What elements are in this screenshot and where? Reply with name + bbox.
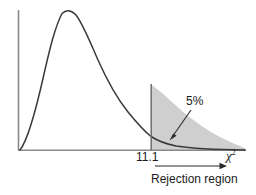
rejection-region-text: Rejection region [151,172,238,186]
chi-square-density-curve [20,11,245,150]
x-axis-label: χ2 [226,149,236,162]
chart-canvas [0,0,256,195]
threshold-value-label: 11.1 [0,151,256,163]
chi-exponent: 2 [232,148,236,157]
chi-square-rejection-region-figure: 11.1 5% χ2 Rejection region [0,0,256,195]
rejection-region-label: Rejection region [0,173,256,185]
rejection-region-arrow [155,163,227,169]
threshold-value-text: 11.1 [136,150,158,164]
percent-area-label: 5% [186,95,203,107]
